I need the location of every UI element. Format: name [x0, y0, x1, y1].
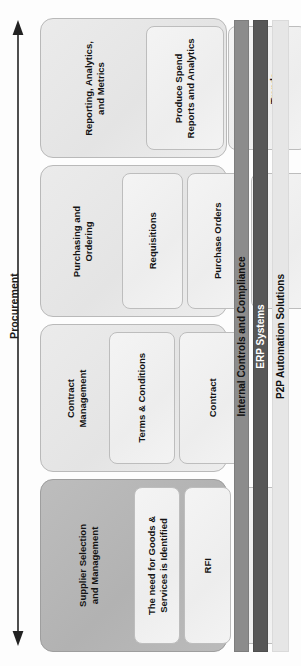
group-title-label: Reporting, Analytics,and Metrics [83, 41, 106, 136]
item-the-need-for-goods-and-services-is-identified[interactable]: The need for Goods &Services is Identifi… [134, 487, 181, 644]
bar-label: Internal Controls and Compliance [236, 256, 247, 416]
group-title-contract-management: ContractManagement [47, 332, 105, 464]
group-title-label: ContractManagement [65, 369, 88, 427]
item-label: RFI [202, 558, 214, 573]
group-title-label: Purchasing andOrdering [71, 205, 94, 276]
group-items-contract-management: Terms & Conditions Contract [109, 332, 246, 464]
item-terms-and-conditions[interactable]: Terms & Conditions [109, 332, 175, 464]
bar-erp-systems[interactable]: ERP Systems [253, 20, 268, 652]
group-supplier-selection-and-management[interactable]: Supplier Selectionand Management The nee… [40, 479, 227, 652]
procurement-axis-label: Procurement [8, 246, 20, 366]
item-produce-spend-reports-and-analytics[interactable]: Produce SpendReports and Analytics [146, 26, 225, 150]
bar-internal-controls-and-compliance[interactable]: Internal Controls and Compliance [234, 20, 249, 652]
group-title-purchasing-and-ordering: Purchasing andOrdering [47, 173, 118, 309]
item-label: Purchase Orders [211, 203, 223, 280]
group-purchasing-and-ordering[interactable]: Purchasing andOrdering Requisitions Purc… [40, 165, 227, 317]
item-label: Contract [207, 378, 219, 417]
bar-label: P2P Automation Solutions [275, 273, 286, 398]
bar-label: ERP Systems [255, 304, 266, 368]
procurement-process-diagram: Procurement Reporting, Analytics,and Met… [0, 0, 301, 666]
group-title-label: Supplier Selectionand Management [77, 524, 100, 607]
item-rfi[interactable]: RFI [184, 487, 231, 644]
item-label: Terms & Conditions [136, 353, 148, 443]
item-label: The need for Goods &Services is Identifi… [146, 516, 169, 615]
procurement-axis: Procurement [0, 0, 38, 666]
bar-p2p-automation-solutions[interactable]: P2P Automation Solutions [272, 20, 289, 652]
group-title-supplier-selection-and-management: Supplier Selectionand Management [47, 487, 130, 644]
group-title-reporting-analytics-and-metrics: Reporting, Analytics,and Metrics [47, 26, 142, 150]
item-requisitions[interactable]: Requisitions [122, 173, 183, 309]
group-contract-management[interactable]: ContractManagement Terms & Conditions Co… [40, 324, 227, 472]
group-reporting-analytics-and-metrics[interactable]: Reporting, Analytics,and Metrics Produce… [40, 18, 227, 158]
item-label: Requisitions [147, 212, 159, 269]
item-label: Produce SpendReports and Analytics [173, 38, 196, 138]
